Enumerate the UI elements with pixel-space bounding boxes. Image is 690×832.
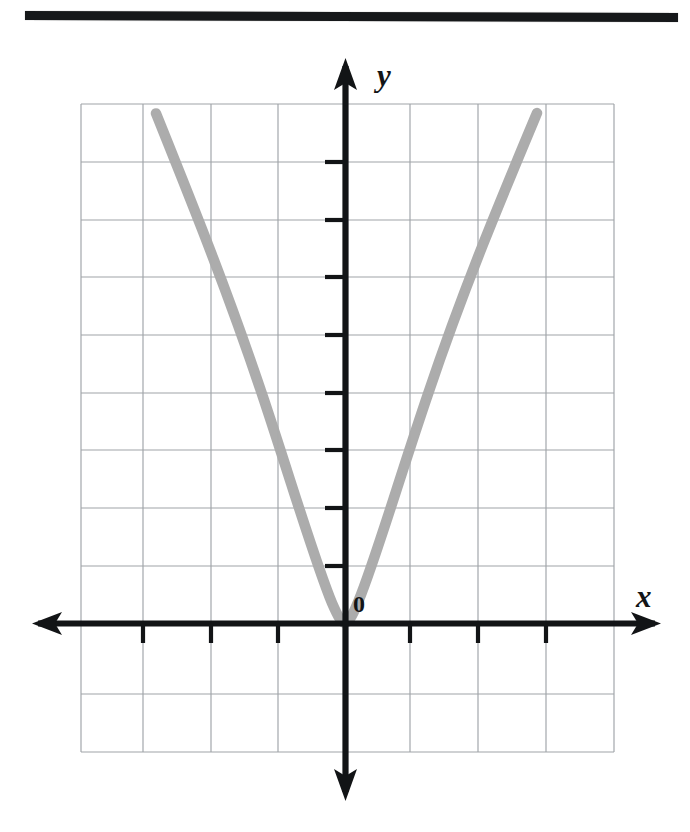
y-axis-ticks bbox=[325, 162, 345, 566]
origin-label: 0 bbox=[353, 591, 365, 617]
axes bbox=[32, 58, 661, 801]
x-axis-label: x bbox=[635, 579, 652, 614]
math-figure-parabola: y x 0 bbox=[0, 0, 690, 832]
coordinate-plane-plot: y x 0 bbox=[0, 0, 690, 832]
y-axis-label: y bbox=[373, 58, 391, 93]
